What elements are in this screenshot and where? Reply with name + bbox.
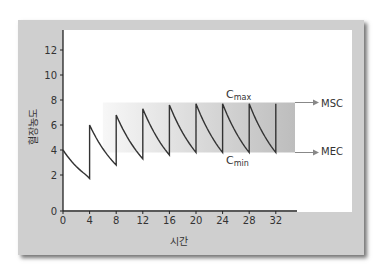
- y-tick-label: 8: [51, 95, 57, 106]
- cmax-label: Cmax: [226, 88, 251, 102]
- x-tick-label: 12: [136, 215, 149, 226]
- x-tick-label: 16: [163, 215, 176, 226]
- x-axis-title: 시간: [170, 236, 188, 247]
- therapeutic-range-band: [103, 100, 319, 156]
- x-tick-label: 8: [113, 215, 119, 226]
- y-tick-label: 10: [44, 70, 57, 81]
- x-tick-label: 32: [269, 215, 282, 226]
- y-tick-label: 6: [51, 120, 57, 131]
- y-tick-label: 12: [44, 45, 57, 56]
- chart-svg: 024681012048121620242832 Cmax Cmin MSC M…: [0, 0, 383, 273]
- y-tick-label: 0: [51, 206, 57, 217]
- x-tick-label: 0: [60, 215, 66, 226]
- msc-arrow-head: [313, 100, 319, 106]
- cmin-label: Cmin: [226, 154, 249, 168]
- x-tick-label: 24: [216, 215, 229, 226]
- mec-arrow-head: [313, 150, 319, 156]
- mec-label: MEC: [321, 146, 343, 157]
- msc-label: MSC: [321, 98, 343, 109]
- y-axis-title: 혈장농도: [27, 109, 39, 145]
- x-tick-label: 4: [86, 215, 92, 226]
- y-tick-label: 4: [51, 145, 57, 156]
- x-tick-label: 20: [190, 215, 203, 226]
- y-tick-label: 2: [51, 170, 57, 181]
- x-tick-label: 28: [243, 215, 256, 226]
